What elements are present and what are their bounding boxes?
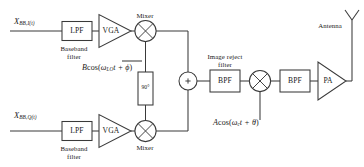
mixer-rf-symbol <box>249 70 270 91</box>
lo-rf-time: t + <box>240 118 252 127</box>
antenna-symbol <box>345 10 359 20</box>
mixer-i-symbol <box>135 20 156 41</box>
input-label-i-subscript: BB,I(t) <box>19 20 34 26</box>
lo-baseband-time: t + <box>113 63 125 72</box>
input-label-q-subscript: BB,Q(t) <box>19 114 37 120</box>
mixer-q-symbol <box>135 120 156 141</box>
lo-rf-fn: cos( <box>218 118 232 127</box>
lo-rf-close: ) <box>256 118 259 127</box>
lo-rf-equation: Acos(ωct + θ) <box>213 119 259 128</box>
mixer-q-caption: Mixer <box>136 144 153 151</box>
image-reject-caption-line2: filter <box>218 61 232 68</box>
baseband-filter-i-caption-line1: Baseband <box>60 45 87 52</box>
block-diagram-canvas: .ln{stroke:#3a3a3a;stroke-width:1.05;fil… <box>0 0 364 167</box>
lo-baseband-fn: cos( <box>87 63 101 72</box>
lpf-i-label: LPF <box>70 27 83 35</box>
baseband-filter-q-caption-line2: filter <box>67 153 81 160</box>
input-label-i: XBB,I(t) <box>14 18 35 27</box>
input-label-q: XBB,Q(t) <box>14 112 37 121</box>
antenna-caption: Antenna <box>318 22 342 29</box>
image-reject-caption-line1: Image reject <box>208 53 243 60</box>
lo-baseband-equation: Bcos(ωLOt + ϕ) <box>82 64 132 73</box>
diagram-vector-layer: .ln{stroke:#3a3a3a;stroke-width:1.05;fil… <box>0 0 364 167</box>
mixer-i-caption: Mixer <box>136 12 153 19</box>
lo-baseband-close: ) <box>130 63 133 72</box>
summing-node-symbol <box>179 72 197 90</box>
bpf-image-reject-label: BPF <box>218 77 232 85</box>
vga-i-label: VGA <box>103 27 120 35</box>
phase-shifter-label: 90° <box>141 85 149 91</box>
vga-q-label: VGA <box>103 127 120 135</box>
lpf-q-label: LPF <box>70 127 83 135</box>
baseband-filter-q-caption-line1: Baseband <box>60 145 87 152</box>
baseband-filter-i-caption-line2: filter <box>67 53 81 60</box>
pa-label: PA <box>323 77 332 85</box>
bpf-output-label: BPF <box>288 77 302 85</box>
